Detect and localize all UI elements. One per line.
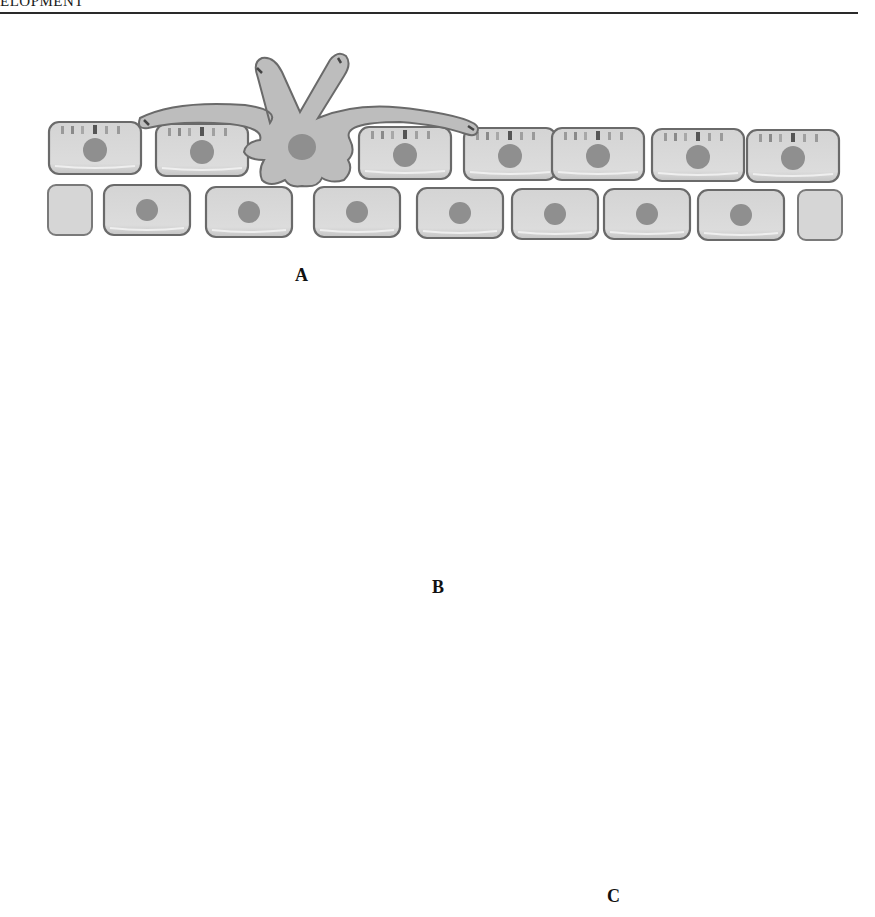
panel-a: [48, 54, 842, 240]
epithelial-cell-row: [49, 122, 839, 182]
panel-label-b: B: [432, 577, 444, 598]
cell-migration-diagram: [0, 0, 875, 917]
panel-label-c: C: [607, 886, 620, 907]
panel-label-a: A: [295, 265, 308, 286]
basal-cell-row: [48, 185, 842, 240]
